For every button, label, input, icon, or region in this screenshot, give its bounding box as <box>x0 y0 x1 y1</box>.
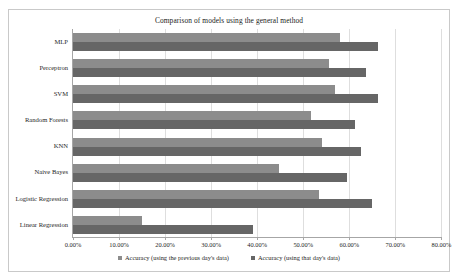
legend-swatch-icon <box>118 256 122 260</box>
bar-accuracy-that-day <box>73 173 347 182</box>
bar-accuracy-previous-day <box>73 164 279 173</box>
x-tick-label: 70.00% <box>385 241 405 248</box>
bar-group: MLP <box>73 29 441 55</box>
x-tick-label: 60.00% <box>339 241 359 248</box>
bar-group: Perceptron <box>73 55 441 81</box>
category-label: Naive Bayes <box>34 169 68 176</box>
x-tick-mark <box>441 237 442 240</box>
chart-title: Comparison of models using the general m… <box>9 16 449 25</box>
bar-group: Random Forests <box>73 107 441 133</box>
bar-group: Naive Bayes <box>73 160 441 186</box>
bar-accuracy-that-day <box>73 199 372 208</box>
chart-frame: Comparison of models using the general m… <box>8 9 450 272</box>
category-label: Logistic Regression <box>15 196 68 203</box>
x-tick-label: 10.00% <box>109 241 129 248</box>
bar-accuracy-previous-day <box>73 85 335 94</box>
category-label: KNN <box>54 143 68 150</box>
legend-item: Accuracy (using the previous day's data) <box>118 254 229 261</box>
legend-item: Accuracy (using that day's data) <box>251 254 340 261</box>
category-label: MLP <box>54 39 68 46</box>
bar-accuracy-that-day <box>73 42 378 51</box>
bar-accuracy-previous-day <box>73 190 319 199</box>
x-tick-label: 20.00% <box>155 241 175 248</box>
legend-swatch-icon <box>251 256 255 260</box>
category-label: Linear Regression <box>20 222 68 229</box>
category-label: SVM <box>54 91 68 98</box>
bar-accuracy-that-day <box>73 225 253 234</box>
bar-accuracy-previous-day <box>73 59 329 68</box>
x-tick-label: 50.00% <box>293 241 313 248</box>
bar-accuracy-that-day <box>73 120 355 129</box>
bar-accuracy-that-day <box>73 68 366 77</box>
gridline <box>441 29 442 237</box>
bar-accuracy-that-day <box>73 94 378 103</box>
bar-rows: MLPPerceptronSVMRandom ForestsKNNNaive B… <box>73 29 441 237</box>
bar-accuracy-previous-day <box>73 216 142 225</box>
bar-accuracy-that-day <box>73 147 361 156</box>
x-tick-label: 30.00% <box>201 241 221 248</box>
bar-accuracy-previous-day <box>73 33 340 42</box>
legend-label: Accuracy (using that day's data) <box>258 254 340 261</box>
bar-group: Logistic Regression <box>73 186 441 212</box>
x-tick-label: 80.00% <box>432 241 452 248</box>
x-tick-label: 40.00% <box>247 241 267 248</box>
plot-area: 0.00%10.00%20.00%30.00%40.00%50.00%60.00… <box>72 29 441 238</box>
chart-legend: Accuracy (using the previous day's data)… <box>9 254 449 261</box>
x-tick-label: 0.00% <box>65 241 82 248</box>
bar-accuracy-previous-day <box>73 111 311 120</box>
bar-group: KNN <box>73 134 441 160</box>
bar-group: SVM <box>73 81 441 107</box>
category-label: Random Forests <box>25 117 68 124</box>
category-label: Perceptron <box>39 65 68 72</box>
bar-accuracy-previous-day <box>73 138 322 147</box>
bar-group: Linear Regression <box>73 212 441 238</box>
legend-label: Accuracy (using the previous day's data) <box>125 254 229 261</box>
